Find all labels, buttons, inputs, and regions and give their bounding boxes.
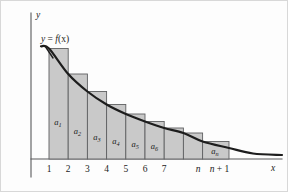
x-tick-label: n <box>196 164 201 174</box>
x-tick-label: n + 1 <box>210 164 230 174</box>
x-tick-label: 1 <box>47 164 52 174</box>
curve-equation-label: y = f(x) <box>40 34 69 45</box>
x-tick-labels-group: 1234567nn + 1 <box>47 164 230 174</box>
x-axis-label: x <box>270 163 276 173</box>
x-tick-label: 6 <box>143 164 148 174</box>
curve-equation-equals: = <box>45 34 55 44</box>
x-tick-label: 2 <box>66 164 71 174</box>
bar-rect <box>49 49 68 160</box>
curve-equation-arg: (x) <box>58 34 69 45</box>
bar-rect <box>68 74 87 159</box>
integral-test-figure: y x y = f(x) 1234567nn + 1 a1a2a3a4a5a6a… <box>1 1 288 192</box>
x-tick-label: 7 <box>162 164 167 174</box>
x-tick-label: 5 <box>123 164 128 174</box>
figure-container: y x y = f(x) 1234567nn + 1 a1a2a3a4a5a6a… <box>0 0 288 192</box>
x-tick-label: 4 <box>104 164 109 174</box>
y-axis-label: y <box>35 10 41 20</box>
x-tick-label: 3 <box>85 164 90 174</box>
